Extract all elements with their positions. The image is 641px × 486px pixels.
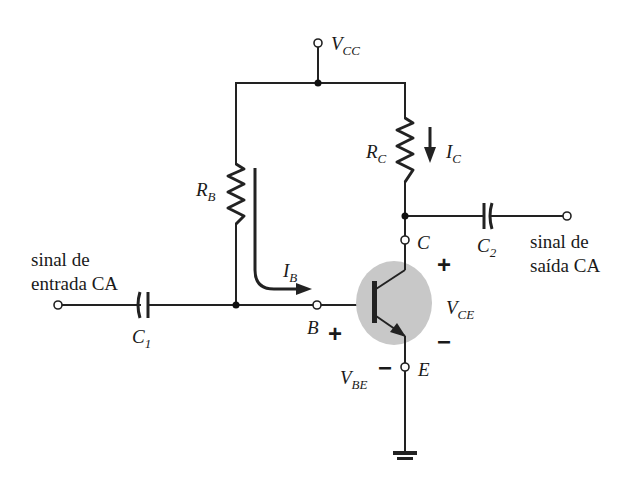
vbe-plus-sign: + (328, 322, 342, 346)
ground-icon (393, 451, 417, 455)
ic-label: IC (446, 142, 461, 161)
emitter-terminal (401, 363, 409, 371)
c2-label: C2 (477, 236, 496, 255)
output-label-line1: sinal de (530, 232, 589, 251)
ground-icon-lower (397, 457, 413, 460)
vbe-label: VBE (340, 368, 368, 387)
output-label-line2: saída CA (530, 256, 600, 275)
junction-dot (315, 80, 322, 87)
base-terminal (313, 301, 321, 309)
vce-plus-sign: + (437, 253, 451, 277)
collector-terminal (401, 236, 409, 244)
vcc-terminal (314, 39, 322, 47)
vbe-minus-sign: − (378, 356, 392, 380)
base-bar (372, 281, 377, 323)
input-label-line2: entrada CA (31, 274, 118, 293)
rc-label: RC (366, 142, 386, 161)
resistor-rb-icon (228, 164, 244, 224)
rb-label: RB (196, 180, 216, 199)
input-label-line1: sinal de (31, 250, 90, 269)
junction-dot (233, 302, 240, 309)
vce-minus-sign: − (437, 330, 451, 354)
vcc-label: VCC (331, 34, 360, 53)
output-terminal (563, 212, 571, 220)
base-label: B (307, 318, 319, 337)
ib-label: IB (283, 261, 297, 280)
ib-arrow-icon (296, 283, 312, 295)
input-terminal (54, 301, 62, 309)
junction-dot (402, 213, 409, 220)
emitter-label: E (418, 360, 430, 379)
c1-label: C1 (132, 327, 151, 346)
resistor-rc-icon (397, 118, 413, 182)
collector-label: C (417, 233, 430, 252)
ic-arrow-icon (424, 147, 436, 163)
vce-label: VCE (446, 298, 474, 317)
